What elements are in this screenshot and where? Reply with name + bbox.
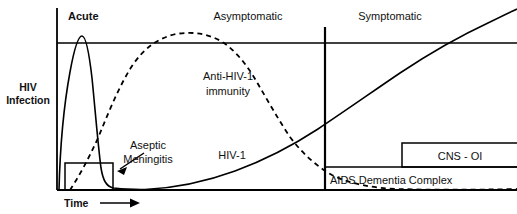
hiv-infection-chart: CNS - OI AIDS Dementia Complex Acute Asy… xyxy=(0,0,517,214)
hiv-1-curve-label: HIV-1 xyxy=(218,149,246,161)
phase-label-symptomatic: Symptomatic xyxy=(358,10,422,22)
aids-dementia-complex-duration-box: AIDS Dementia Complex xyxy=(325,167,517,190)
x-axis-arrow-head xyxy=(130,199,140,208)
aids-dementia-complex-label: AIDS Dementia Complex xyxy=(330,174,453,186)
hiv-1-progression-path xyxy=(145,9,517,190)
x-axis-label: Time xyxy=(64,197,88,209)
aseptic-meningitis-label-line2: Meningitis xyxy=(123,153,173,165)
aseptic-meningitis-annotation: Aseptic Meningitis xyxy=(123,139,173,165)
anti-hiv-1-immunity-label-line1: Anti-HIV-1 xyxy=(203,70,253,82)
y-axis-label-line2: Infection xyxy=(6,94,50,106)
chart-canvas: CNS - OI AIDS Dementia Complex Acute Asy… xyxy=(0,0,517,214)
y-axis-label-line1: HIV xyxy=(19,81,37,93)
anti-hiv-1-immunity-label-line2: immunity xyxy=(206,85,251,97)
phase-label-asymptomatic: Asymptomatic xyxy=(213,10,283,22)
x-axis-label-group: Time xyxy=(64,197,140,209)
aseptic-meningitis-label-line1: Aseptic xyxy=(130,139,167,151)
phase-label-acute: Acute xyxy=(68,10,99,22)
cns-oi-duration-box: CNS - OI xyxy=(402,143,517,167)
y-axis-label: HIV Infection xyxy=(6,81,50,106)
hiv-1-acute-spike-path xyxy=(59,36,145,190)
cns-oi-label: CNS - OI xyxy=(438,150,483,162)
curve-label-anti-hiv-1-immunity: Anti-HIV-1 immunity xyxy=(203,70,253,97)
